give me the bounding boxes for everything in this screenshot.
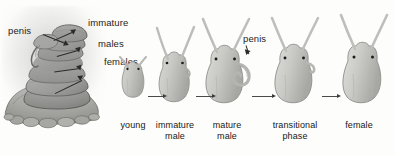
figure-female bbox=[334, 14, 392, 106]
stage-label-immature-male-line1: immature bbox=[156, 120, 194, 130]
stage-label-female-line1: female bbox=[345, 120, 373, 130]
figure-mature-male bbox=[198, 18, 254, 106]
stage-label-young-line1: young bbox=[120, 120, 145, 130]
chain-arrow-transitional-to-female bbox=[337, 94, 341, 98]
slipper-limpet-sex-change-diagram: penis immature males females bbox=[0, 0, 395, 156]
chain-arrow-mature-to-transitional bbox=[272, 94, 276, 98]
stage-label-mature-male-line1: mature bbox=[213, 120, 242, 130]
stage-label-mature-male-line2: male bbox=[217, 131, 237, 141]
chain-line-transitional-to-female bbox=[322, 96, 338, 97]
stage-label-mature-male: mature male bbox=[205, 120, 249, 141]
stage-label-female: female bbox=[338, 120, 380, 131]
figure-transitional-phase bbox=[266, 16, 324, 106]
stage-label-transitional-phase: transitional phase bbox=[261, 120, 329, 141]
label-penis-right: penis bbox=[243, 33, 266, 44]
arrowhead-females-upper bbox=[76, 64, 82, 71]
stage-label-young: young bbox=[113, 120, 153, 131]
chain-arrow-immature-to-mature bbox=[212, 94, 216, 98]
chain-line-mature-to-transitional bbox=[252, 96, 273, 97]
figure-young bbox=[116, 57, 150, 105]
stage-label-immature-male: immature male bbox=[150, 120, 200, 141]
chain-arrow-young-to-immature bbox=[163, 94, 167, 98]
chain-line-young-to-immature bbox=[148, 96, 164, 97]
label-males: males bbox=[98, 38, 124, 49]
figure-immature-male bbox=[152, 26, 198, 105]
stage-label-immature-male-line2: male bbox=[165, 131, 185, 141]
label-immature: immature bbox=[88, 17, 128, 28]
stage-label-transitional-phase-line1: transitional bbox=[273, 120, 318, 130]
chain-line-immature-to-mature bbox=[196, 96, 213, 97]
stage-label-transitional-phase-line2: phase bbox=[282, 131, 307, 141]
label-penis-left: penis bbox=[8, 25, 31, 36]
